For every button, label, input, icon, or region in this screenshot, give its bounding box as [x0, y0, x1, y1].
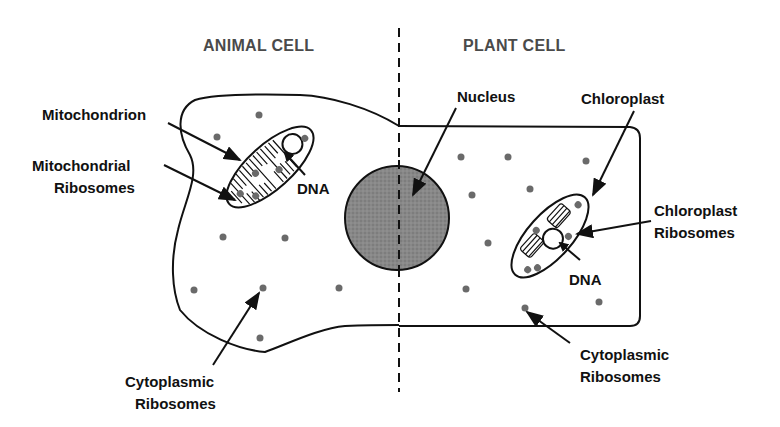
animal-cyto-arrow [213, 293, 259, 365]
animal-cell-heading: ANIMAL CELL [203, 37, 314, 54]
chloro-ribosomes-label-2: Ribosomes [654, 224, 735, 241]
cell-comparison-diagram: ANIMAL CELL PLANT CELL [0, 0, 780, 427]
mitochondrion [214, 114, 325, 220]
plant-cyto-label-2: Ribosomes [580, 368, 661, 385]
chloro-ribosomes-label-1: Chloroplast [654, 202, 737, 219]
mito-dna-label: DNA [297, 180, 330, 197]
mito-ribosomes-label-1: Mitochondrial [32, 157, 130, 174]
chloroplast-label: Chloroplast [581, 90, 664, 107]
mitochondrion-label: Mitochondrion [42, 106, 146, 123]
nucleus [345, 166, 449, 270]
chloroplast-arrow [593, 111, 634, 195]
plant-cell-heading: PLANT CELL [463, 37, 566, 54]
nucleus-label: Nucleus [457, 88, 515, 105]
animal-cyto-label-2: Ribosomes [135, 395, 216, 412]
mito-ribosomes-arrow [164, 165, 235, 200]
plant-cyto-label-1: Cytoplasmic [580, 346, 669, 363]
chloro-dna-label: DNA [569, 271, 602, 288]
animal-cyto-label-1: Cytoplasmic [125, 373, 214, 390]
plant-cyto-arrow [527, 312, 570, 343]
mitochondrion-arrow [168, 123, 240, 160]
mito-ribosomes-label-2: Ribosomes [54, 179, 135, 196]
